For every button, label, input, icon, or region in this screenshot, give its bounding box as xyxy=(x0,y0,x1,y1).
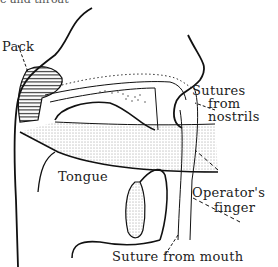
anatomy-drawing xyxy=(0,0,278,267)
tongue-curve xyxy=(38,152,55,192)
nose-profile xyxy=(174,35,204,128)
label-operator-finger-line2: finger xyxy=(214,201,255,215)
label-sutures-line3: nostrils xyxy=(208,110,260,124)
medical-diagram: e and throat xyxy=(0,0,278,267)
label-tongue: Tongue xyxy=(58,170,108,184)
label-pack: Pack xyxy=(2,40,34,54)
label-suture-from-mouth: Suture from mouth xyxy=(112,250,243,264)
uvula-structure xyxy=(126,182,145,238)
label-operator-finger-line1: Operator's xyxy=(192,186,265,200)
pack-region xyxy=(18,67,62,122)
